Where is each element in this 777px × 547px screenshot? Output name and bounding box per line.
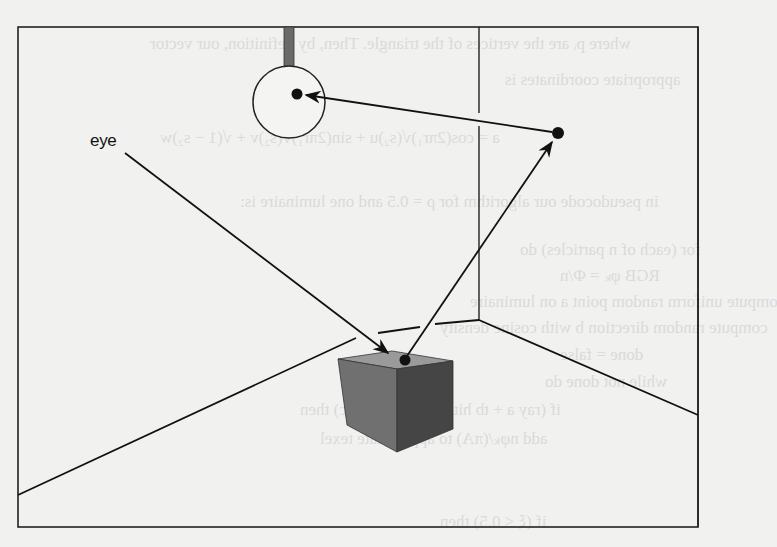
cube-hit-dot bbox=[400, 355, 411, 366]
eye-to-cube-ray bbox=[125, 153, 388, 353]
cube-left-face bbox=[338, 359, 397, 452]
luminaire-sphere bbox=[253, 66, 325, 138]
cube-right-face bbox=[397, 361, 453, 452]
eye-label: eye bbox=[90, 131, 117, 151]
ray-diagram bbox=[0, 0, 777, 547]
luminaire-center-dot bbox=[292, 89, 303, 100]
floor-edge-left-dash-2 bbox=[435, 320, 479, 324]
floor-edge-right bbox=[479, 320, 698, 415]
wall-to-light-ray bbox=[306, 95, 552, 132]
floor-edge-left-dash bbox=[378, 327, 420, 333]
floor-edge-left bbox=[18, 338, 356, 495]
book-page: where pᵢ are the vertices of the triangl… bbox=[0, 0, 777, 547]
light-rod bbox=[284, 27, 294, 67]
wall-point-dot bbox=[552, 127, 564, 139]
